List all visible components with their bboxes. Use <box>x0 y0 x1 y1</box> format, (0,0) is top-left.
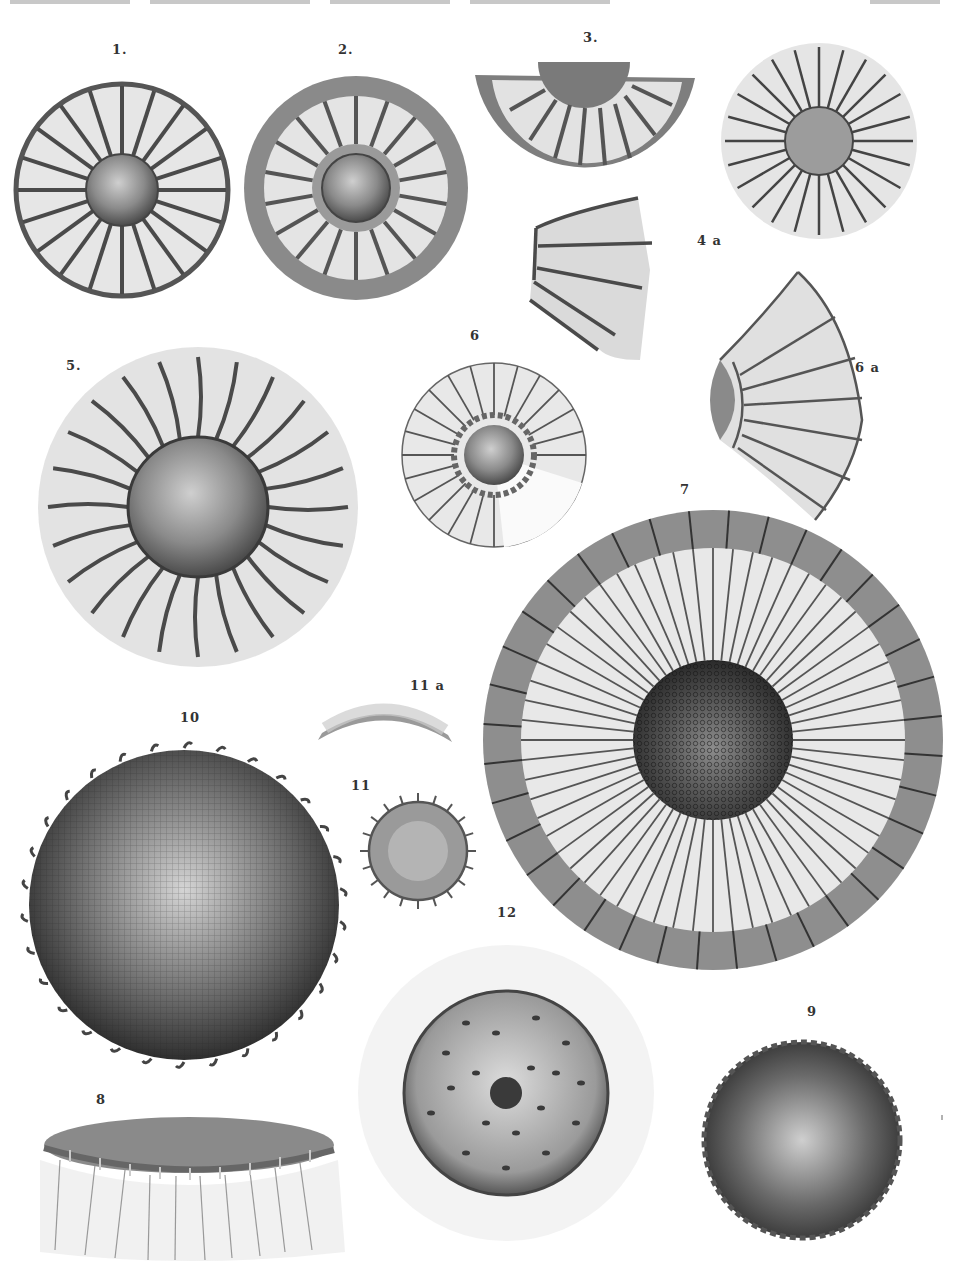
figure-5 <box>38 347 358 667</box>
figure-9 <box>704 1042 900 1238</box>
figure-label-5: 5. <box>66 358 82 373</box>
figure-12 <box>358 945 654 1241</box>
figure-label-11a: 11 a <box>410 678 445 693</box>
figure-label-12: 12 <box>497 905 517 920</box>
figure-10 <box>22 743 347 1068</box>
figure-8 <box>40 1117 345 1261</box>
figure-label-6a: 6 a <box>855 360 880 375</box>
figure-2 <box>244 76 468 300</box>
figure-4 <box>721 43 917 239</box>
figure-label-7: 7 <box>680 482 690 497</box>
illustration-plate <box>0 0 954 1282</box>
figure-label-10: 10 <box>180 710 200 725</box>
figure-label-2: 2. <box>338 42 354 57</box>
figure-6 <box>402 363 586 547</box>
figure-label-9: 9 <box>807 1004 817 1019</box>
figure-label-4a: 4 a <box>697 233 722 248</box>
figure-7 <box>483 510 943 970</box>
figure-label-11: 11 <box>351 778 371 793</box>
figure-label-3: 3. <box>583 30 599 45</box>
figure-4a <box>530 198 652 360</box>
figure-label-8: 8 <box>96 1092 106 1107</box>
figure-3 <box>475 62 695 167</box>
figure-11 <box>360 793 476 909</box>
figure-1 <box>16 84 228 296</box>
figure-label-1: 1. <box>112 42 128 57</box>
figure-6a <box>710 272 862 520</box>
figure-11a <box>318 709 452 742</box>
figure-label-6: 6 <box>470 328 480 343</box>
